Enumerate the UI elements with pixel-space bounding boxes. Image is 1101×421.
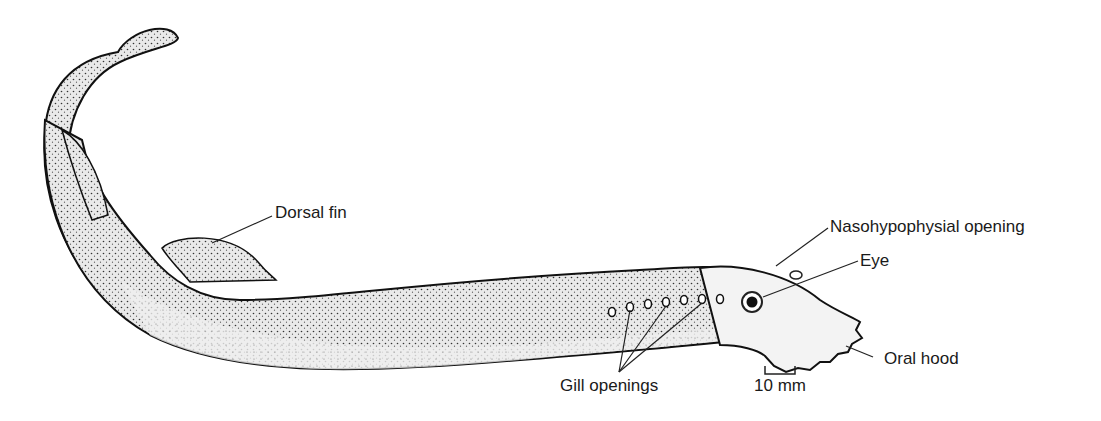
label-scale-bar: 10 mm: [754, 376, 806, 396]
label-gill-openings: Gill openings: [560, 376, 658, 396]
head: [700, 267, 862, 372]
nasohypophysial-opening-icon: [790, 271, 802, 279]
label-oral-hood: Oral hood: [884, 349, 959, 369]
lamprey-diagram: Dorsal fin Nasohypophysial opening Eye O…: [0, 0, 1101, 421]
dorsal-fin: [162, 238, 276, 282]
label-eye: Eye: [860, 251, 889, 271]
label-nasohypophysial-opening: Nasohypophysial opening: [830, 217, 1025, 237]
label-dorsal-fin: Dorsal fin: [275, 203, 347, 223]
